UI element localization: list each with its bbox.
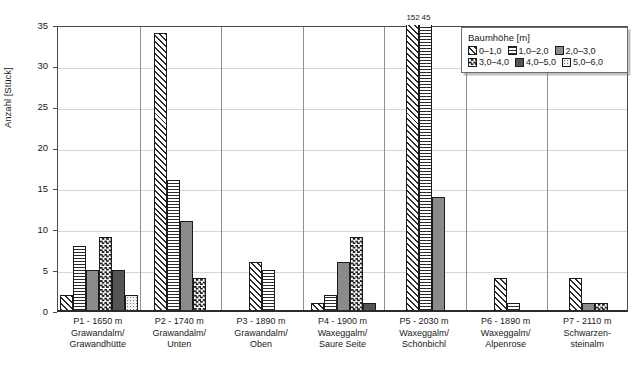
bar [125,295,138,311]
x-tick-label-line: P2 - 1740 m [139,316,221,328]
y-axis-title: Anzahl [Stück] [2,8,13,128]
x-tick-label-line: Waxeggalm/ [302,328,384,340]
bar: 152 [406,25,419,311]
legend-item-label: 3,0–4,0 [479,57,509,67]
y-tick-label: 10 [14,224,48,235]
legend-swatch-icon [468,46,477,55]
legend-item-label: 2,0–3,0 [566,46,596,56]
y-tick-label: 5 [14,265,48,276]
bar-group [140,27,222,311]
bar [86,270,99,311]
x-tick-label-line: Unten [139,339,221,351]
y-tick-label: 25 [14,101,48,112]
x-tick-label: P1 - 1650 mGrawandalm/Grawandhütte [57,316,139,351]
x-tick-label: P2 - 1740 mGrawandalm/Unten [139,316,221,351]
bar [167,180,180,311]
bar-group [58,27,140,311]
legend: Baumhöhe [m] 0–1,01,0–2,02,0–3,0 3,0–4,0… [461,27,628,73]
legend-swatch-icon [562,58,571,67]
legend-swatch-icon [468,58,477,67]
x-tick-label: P4 - 1900 mWaxeggalm/Saure Seite [302,316,384,351]
legend-title: Baumhöhe [m] [468,32,622,43]
x-tick-label-line: P3 - 1890 m [220,316,302,328]
bar [193,278,206,311]
bar [73,246,86,311]
bar [324,295,337,311]
x-tick-label-line: Waxeggalm/ [465,328,547,340]
y-tick-label: 20 [14,142,48,153]
x-tick-label-line: Schönbichl [383,339,465,351]
bar-value-label: 45 [409,13,444,22]
x-tick-label: P7 - 2110 mSchwarzen-steinalm [546,316,628,351]
bar [569,278,582,311]
legend-item: 3,0–4,0 [468,57,509,67]
bar-group: 15245 [384,27,466,311]
x-tick-label-line: P1 - 1650 m [57,316,139,328]
x-tick-label-line: Grawandalm/ [220,328,302,340]
legend-item: 4,0–5,0 [515,57,556,67]
y-tick-label: 15 [14,183,48,194]
legend-row-bottom: 3,0–4,04,0–5,05,0–6,0 [468,57,622,67]
legend-item: 0–1,0 [468,46,502,56]
x-tick-label: P5 - 2030 mWaxeggalm/Schönbichl [383,316,465,351]
legend-swatch-icon [515,58,524,67]
bar-group [221,27,303,311]
x-tick-label-line: Schwarzen- [546,328,628,340]
bar [350,237,363,311]
x-tick-label-line: Grawandalm/ [139,328,221,340]
bar [249,262,262,311]
x-tick-label-line: steinalm [546,339,628,351]
legend-item-label: 1,0–2,0 [519,46,549,56]
x-tick-label: P3 - 1890 mGrawandalm/Oben [220,316,302,351]
legend-item-label: 5,0–6,0 [573,57,603,67]
x-tick-label-line: P6 - 1890 m [465,316,547,328]
bar [60,295,73,311]
x-tick-label: P6 - 1890 mWaxeggalm/Alpenrose [465,316,547,351]
bar [99,237,112,311]
x-tick-label-line: P7 - 2110 m [546,316,628,328]
x-tick-label-line: Alpenrose [465,339,547,351]
bar-chart: Anzahl [Stück] 05101520253035 15245 Baum… [0,0,643,366]
bar [154,33,167,311]
legend-item-label: 4,0–5,0 [526,57,556,67]
y-tick-label: 30 [14,60,48,71]
bar [112,270,125,311]
legend-swatch-icon [508,46,517,55]
bar-group [303,27,385,311]
x-tick-label-line: Oben [220,339,302,351]
x-tick-label-line: P5 - 2030 m [383,316,465,328]
legend-item-label: 0–1,0 [479,46,502,56]
bar [262,270,275,311]
x-tick-label-line: Waxeggalm/ [383,328,465,340]
x-tick-label-line: P4 - 1900 m [302,316,384,328]
legend-item: 5,0–6,0 [562,57,603,67]
y-tick-mark [53,312,57,313]
legend-row-top: 0–1,01,0–2,02,0–3,0 [468,46,622,56]
bar [180,221,193,311]
legend-swatch-icon [555,46,564,55]
x-tick-label-line: Saure Seite [302,339,384,351]
y-tick-label: 35 [14,20,48,31]
x-tick-label-line: Grawandalm/ [57,328,139,340]
y-tick-label: 0 [14,306,48,317]
x-axis-tick-labels: P1 - 1650 mGrawandalm/GrawandhütteP2 - 1… [57,316,628,364]
bar: 45 [419,25,432,311]
legend-item: 2,0–3,0 [555,46,596,56]
bar [432,197,445,311]
bar [337,262,350,311]
legend-item: 1,0–2,0 [508,46,549,56]
x-tick-label-line: Grawandhütte [57,339,139,351]
bar [494,278,507,311]
x-axis-line [58,310,627,311]
